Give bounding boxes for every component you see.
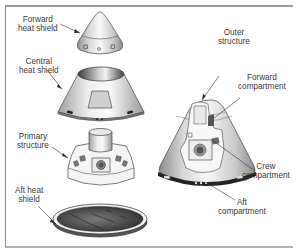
label-forward-compartment: Forward compartment [238,73,286,91]
central-heat-shield-part [58,67,144,121]
forward-heat-shield-part [77,12,122,54]
label-central-heat-shield: Central heat shield [19,57,59,75]
primary-structure-part [68,129,134,186]
label-aft-compartment: Aft compartment [218,198,266,216]
label-crew-compartment: Crew compartment [242,162,290,180]
label-aft-heat-shield: Aft heat shield [15,186,43,204]
label-outer-structure: Outer structure [218,28,250,46]
aft-heat-shield-part [53,204,147,237]
label-primary-structure: Primary structure [17,132,49,150]
label-forward-heat-shield: Forward heat shield [18,15,58,33]
